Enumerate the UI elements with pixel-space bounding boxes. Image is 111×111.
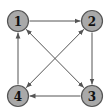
node-label: 1 [14,15,22,29]
node-1: 1 [8,11,29,32]
node-2: 2 [82,11,103,32]
node-label: 3 [88,90,96,104]
graph-diagram: 1234 [0,0,111,111]
edges-layer [18,21,92,96]
node-label: 2 [88,15,96,29]
node-3: 3 [82,86,103,107]
node-4: 4 [8,86,29,107]
node-label: 4 [14,90,22,104]
